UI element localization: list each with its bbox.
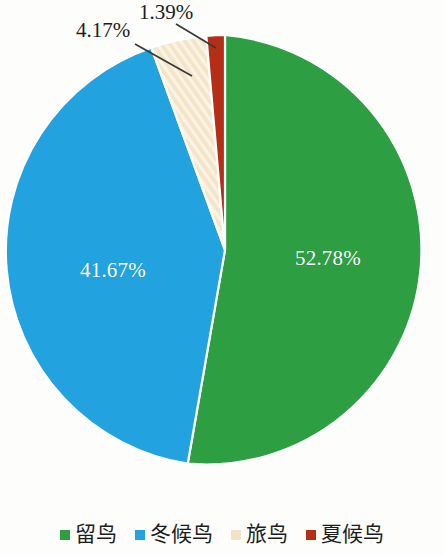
chart-legend: 留鸟 冬候鸟 旅鸟 夏候鸟 (0, 524, 444, 545)
legend-label-xiahouniao: 夏候鸟 (321, 524, 384, 545)
pie-svg (0, 0, 444, 500)
legend-item-lvniao[interactable]: 旅鸟 (231, 524, 288, 545)
legend-item-donghouniao[interactable]: 冬候鸟 (135, 524, 213, 545)
slice-percent-label-green: 52.78% (295, 246, 361, 271)
slice-percent-label-blue: 41.67% (80, 258, 146, 283)
legend-item-xiahouniao[interactable]: 夏候鸟 (306, 524, 384, 545)
legend-swatch-cream (231, 530, 241, 540)
legend-label-liuniao: 留鸟 (75, 524, 117, 545)
chart-canvas: 52.78% 41.67% 4.17% 1.39% 留鸟 冬候鸟 旅鸟 夏候鸟 (0, 0, 444, 555)
legend-label-lvniao: 旅鸟 (246, 524, 288, 545)
legend-swatch-green (60, 530, 70, 540)
legend-swatch-blue (135, 530, 145, 540)
slice-percent-callout-red: 1.39% (139, 0, 193, 25)
legend-label-donghouniao: 冬候鸟 (150, 524, 213, 545)
slice-percent-callout-cream: 4.17% (76, 18, 130, 43)
legend-item-liuniao[interactable]: 留鸟 (60, 524, 117, 545)
pie-chart: 52.78% 41.67% 4.17% 1.39% (0, 0, 444, 500)
legend-swatch-red (306, 530, 316, 540)
